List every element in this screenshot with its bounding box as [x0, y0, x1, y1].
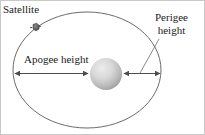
apogee-height-label: Apogee height [24, 53, 88, 65]
satellite-marker-icon [30, 23, 41, 31]
satellite-label: Satellite [3, 3, 39, 15]
perigee-label-line2: height [155, 24, 188, 37]
perigee-label-line1: Perigee [155, 11, 188, 23]
earth-sphere-icon [90, 58, 122, 90]
perigee-height-label: Perigee height [155, 11, 188, 37]
perigee-leader-line [140, 39, 159, 73]
orbit-diagram: Satellite Perigee height Apogee height [0, 0, 205, 135]
